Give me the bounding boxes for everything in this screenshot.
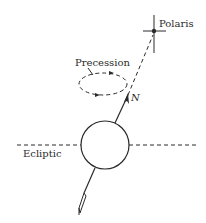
precession-arrow-bottom-icon <box>95 93 100 97</box>
north-label: N <box>130 92 141 103</box>
axis-to-polaris-dashed <box>128 35 153 95</box>
precession-ellipse <box>79 73 127 95</box>
polaris-star-icon <box>152 29 156 33</box>
precession-leader-line <box>88 68 93 75</box>
precession-label: Precession <box>75 57 130 68</box>
earth-circle <box>81 121 129 169</box>
ecliptic-label: Ecliptic <box>23 148 62 159</box>
axis-south-segment <box>84 168 95 193</box>
polaris-label: Polaris <box>159 18 194 29</box>
precession-diagram: Polaris Precession N Ecliptic <box>0 0 206 223</box>
precession-arrow-top-icon <box>109 71 114 75</box>
axis-south-needle <box>79 193 86 213</box>
